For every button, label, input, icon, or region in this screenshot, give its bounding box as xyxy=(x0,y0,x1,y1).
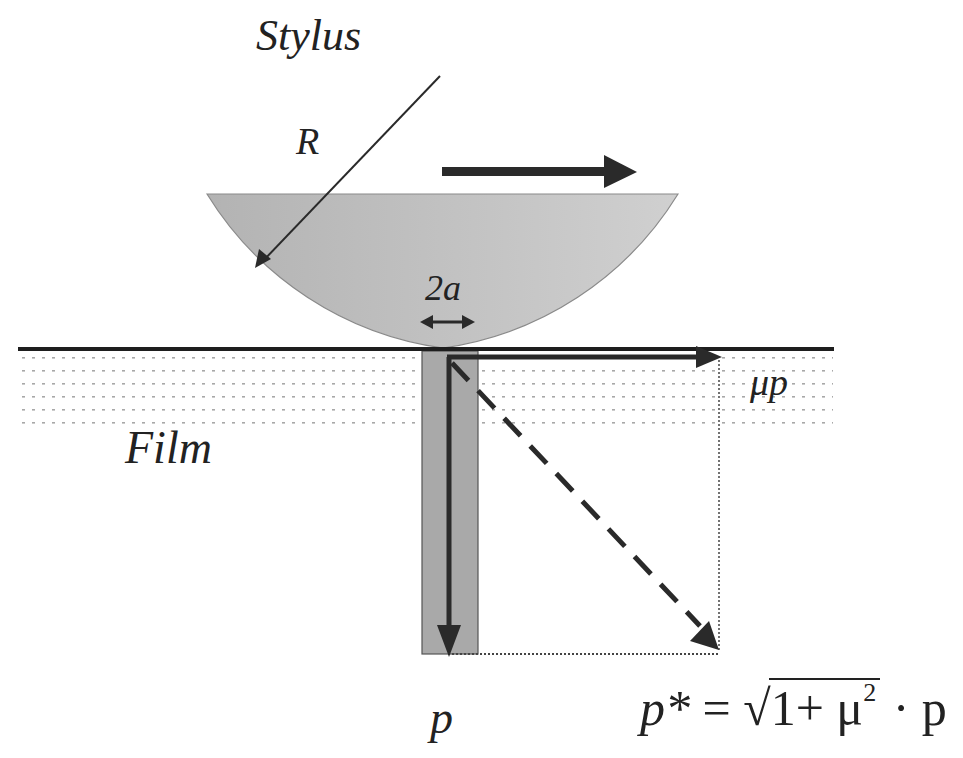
resultant-formula: p* = √1+ μ2 · p xyxy=(640,678,947,733)
radius-label: R xyxy=(296,122,319,160)
resultant-arrowhead-icon xyxy=(690,621,719,650)
formula-exponent: 2 xyxy=(863,678,876,707)
motion-arrow-shaft xyxy=(442,167,607,176)
stylus-scratch-diagram xyxy=(0,0,963,758)
contact-width-label: 2a xyxy=(425,270,461,306)
film-label: Film xyxy=(125,425,212,471)
formula-tail: · p xyxy=(893,680,947,736)
friction-force-label: μp xyxy=(750,363,788,401)
formula-lhs: p* xyxy=(640,680,690,736)
formula-equals: = xyxy=(703,680,731,736)
formula-radical-content: 1+ μ xyxy=(771,680,864,736)
normal-force-label: p xyxy=(430,695,453,741)
formula-radicand: 1+ μ2 xyxy=(769,678,881,733)
sqrt-icon: √ xyxy=(743,680,770,736)
stylus-label: Stylus xyxy=(256,14,361,58)
motion-arrow-icon xyxy=(604,155,637,188)
